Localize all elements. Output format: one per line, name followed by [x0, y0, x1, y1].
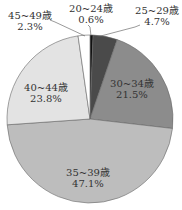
label-30-34: 30~34歳 21.5% — [110, 78, 154, 100]
label-25-29: 25~29歳 4.7% — [135, 5, 179, 27]
pie-slice-35~39歳 — [7, 119, 172, 203]
label-30-34-name: 30~34歳 — [110, 78, 154, 89]
label-45-49-name: 45~49歳 — [8, 10, 52, 21]
label-20-24: 20~24歳 0.6% — [69, 3, 113, 25]
label-20-24-pct: 0.6% — [69, 14, 113, 25]
label-40-44-name: 40~44歳 — [24, 82, 68, 93]
pie-slice-40~44歳 — [7, 36, 90, 125]
label-45-49-pct: 2.3% — [8, 21, 52, 32]
label-40-44-pct: 23.8% — [24, 93, 68, 104]
label-35-39: 35~39歳 47.1% — [66, 167, 110, 189]
label-40-44: 40~44歳 23.8% — [24, 82, 68, 104]
label-35-39-name: 35~39歳 — [66, 167, 110, 178]
label-35-39-pct: 47.1% — [66, 178, 110, 189]
label-45-49: 45~49歳 2.3% — [8, 10, 52, 32]
leader-line-20-24 — [88, 25, 91, 36]
label-20-24-name: 20~24歳 — [69, 3, 113, 14]
leader-line-25-29 — [97, 25, 140, 37]
label-25-29-pct: 4.7% — [135, 16, 179, 27]
label-30-34-pct: 21.5% — [110, 89, 154, 100]
label-25-29-name: 25~29歳 — [135, 5, 179, 16]
